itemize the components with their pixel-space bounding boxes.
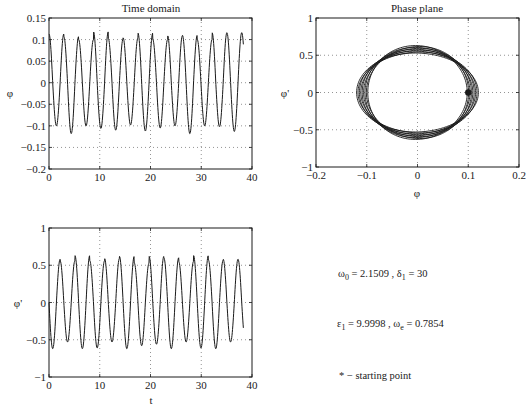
y-tick-label: −0.5: [293, 124, 313, 136]
x-tick-label: 20: [145, 379, 157, 391]
eps1-value: = 9.9998 ,: [345, 318, 393, 329]
velocity-plot: 010203040−1−0.500.51 t φ': [14, 222, 258, 406]
x-tick-label: 40: [247, 379, 259, 391]
velocity-ylabel: φ': [14, 297, 22, 309]
velocity-xlabel: t: [149, 394, 152, 406]
velocity-ticks: 010203040−1−0.500.51: [26, 222, 258, 391]
omega0-symbol: ω: [338, 268, 345, 279]
y-tick-label: −0.05: [21, 98, 47, 110]
x-tick-label: 0: [46, 379, 52, 391]
y-tick-label: −0.15: [21, 141, 47, 153]
omega0-value: = 2.1509 ,: [349, 268, 397, 279]
x-tick-label: 10: [94, 171, 106, 183]
y-tick-label: 0: [308, 87, 314, 99]
y-tick-label: 1: [308, 12, 314, 24]
time-domain-ylabel: φ: [7, 87, 13, 99]
x-tick-label: 30: [196, 171, 208, 183]
time-domain-title: Time domain: [122, 2, 181, 14]
delta1-value: = 30: [406, 268, 428, 279]
phase-plane-grid: [316, 18, 519, 167]
omega0-delta1-annotation: ω0 = 2.1509 , δ1 = 30: [338, 268, 427, 282]
time-domain-phi-curve: [49, 32, 243, 134]
figure: Time domain 010203040−0.2−0.15−0.1−0.050…: [0, 0, 527, 408]
x-tick-label: 0.1: [461, 169, 475, 181]
phase-plane-plot: Phase plane −0.2−0.100.10.2−1−0.500.51 φ…: [281, 2, 526, 199]
y-tick-label: 0: [41, 77, 47, 89]
y-tick-label: 0.1: [32, 34, 46, 46]
phase-plane-ylabel: φ': [281, 87, 289, 99]
starting-point-marker: [465, 89, 471, 95]
x-tick-label: −0.1: [357, 169, 377, 181]
velocity-grid: [49, 228, 252, 377]
y-tick-label: 0.15: [27, 12, 47, 24]
y-tick-label: −1: [34, 371, 46, 383]
x-tick-label: 0: [46, 171, 52, 183]
x-tick-label: 30: [196, 379, 208, 391]
y-tick-label: −0.2: [26, 163, 46, 175]
phase-plane-xlabel: φ: [414, 187, 420, 199]
eps1-omegae-annotation: ε1 = 9.9998 , ωe = 0.7854: [337, 318, 444, 332]
x-tick-label: 0.2: [512, 169, 526, 181]
phase-plane-ticks: −0.2−0.100.10.2−1−0.500.51: [293, 12, 526, 181]
y-tick-label: −0.1: [26, 120, 46, 132]
omegae-value: = 0.7854: [404, 318, 444, 329]
y-tick-label: 0: [41, 297, 47, 309]
y-tick-label: −0.5: [26, 334, 46, 346]
x-tick-label: 10: [94, 379, 106, 391]
y-tick-label: 0.5: [299, 49, 313, 61]
velocity-dphi-curve: [49, 256, 243, 349]
x-tick-label: 0: [415, 169, 421, 181]
phase-plane-title: Phase plane: [391, 2, 443, 14]
x-tick-label: 40: [247, 171, 259, 183]
y-tick-label: −1: [301, 161, 313, 173]
starting-point-legend: * − starting point: [339, 370, 411, 381]
y-tick-label: 0.5: [32, 259, 46, 271]
y-tick-label: 1: [41, 222, 47, 234]
y-tick-label: 0.05: [27, 55, 47, 67]
time-domain-plot: Time domain 010203040−0.2−0.15−0.1−0.050…: [7, 2, 258, 183]
x-tick-label: 20: [145, 171, 157, 183]
